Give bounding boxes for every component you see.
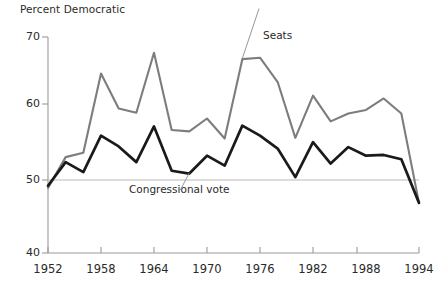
series-line-congressional-vote xyxy=(48,126,419,203)
chart-container: Percent Democratic 70 60 50 40 1952 1958… xyxy=(0,0,442,291)
chart-plot-area xyxy=(0,0,442,291)
leader-line-seats xyxy=(242,9,259,59)
axis-ticks xyxy=(42,37,419,253)
leader-line-congressional-vote xyxy=(180,173,189,190)
